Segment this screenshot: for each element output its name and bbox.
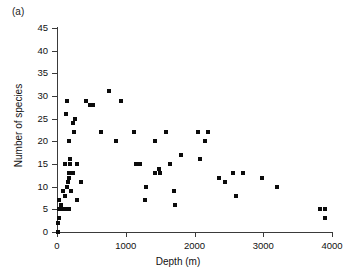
data-point [84,99,88,103]
data-point [144,185,148,189]
data-point [68,162,72,166]
x-tick-mark [263,232,264,237]
data-point [57,216,61,220]
data-point [198,157,202,161]
y-tick-label: 0 [26,226,48,237]
data-point [196,130,200,134]
y-tick-label: 20 [26,135,48,146]
data-point [132,130,136,134]
figure-panel: (a) 01000200030004000 051015202530354045… [0,0,356,277]
data-point [71,121,75,125]
x-tick-label: 0 [37,240,77,251]
y-tick-label: 10 [26,181,48,192]
data-point [318,207,322,211]
data-point [73,117,77,121]
data-point [56,221,60,225]
data-point [61,189,65,193]
data-point [69,189,73,193]
data-point [217,176,221,180]
data-point [143,198,147,202]
data-point [107,89,111,93]
data-point [153,139,157,143]
data-point [158,171,162,175]
panel-label: (a) [12,6,24,17]
data-point [67,207,71,211]
data-point [323,216,327,220]
y-tick-label: 5 [26,203,48,214]
data-point [323,207,327,211]
y-tick-label: 25 [26,113,48,124]
data-point [260,176,264,180]
data-point [234,194,238,198]
data-point [172,189,176,193]
y-tick-label: 15 [26,158,48,169]
data-point [75,162,79,166]
data-point [157,167,161,171]
data-point [63,162,67,166]
data-point [99,130,103,134]
data-point [168,162,172,166]
data-point [56,230,60,234]
data-point [138,162,142,166]
x-axis-title: Depth (m) [0,256,356,267]
data-point [114,139,118,143]
x-tick-label: 3000 [243,240,283,251]
data-point [79,180,83,184]
data-point [203,139,207,143]
y-tick-label: 40 [26,45,48,56]
x-tick-label: 4000 [312,240,352,251]
data-point [119,99,123,103]
y-axis-title: Number of species [13,61,24,191]
x-tick-mark [195,232,196,237]
data-point [91,103,95,107]
x-tick-label: 1000 [106,240,146,251]
data-point [65,99,69,103]
x-tick-mark [126,232,127,237]
data-point [179,153,183,157]
data-point [64,112,68,116]
data-point [173,203,177,207]
data-point [164,130,168,134]
data-point [67,139,71,143]
y-tick-label: 30 [26,90,48,101]
data-point [67,176,71,180]
x-tick-mark [332,232,333,237]
data-point [241,171,245,175]
data-point [153,171,157,175]
data-point [71,171,75,175]
data-point [231,171,235,175]
data-point [57,198,61,202]
x-tick-label: 2000 [175,240,215,251]
data-point [223,180,227,184]
data-point [59,203,63,207]
data-point [275,185,279,189]
data-point [65,185,69,189]
data-point [63,194,67,198]
data-point [75,198,79,202]
data-point [72,130,76,134]
data-point [66,180,70,184]
data-point [68,157,72,161]
data-point [206,130,210,134]
y-tick-label: 35 [26,67,48,78]
y-tick-label: 45 [26,22,48,33]
